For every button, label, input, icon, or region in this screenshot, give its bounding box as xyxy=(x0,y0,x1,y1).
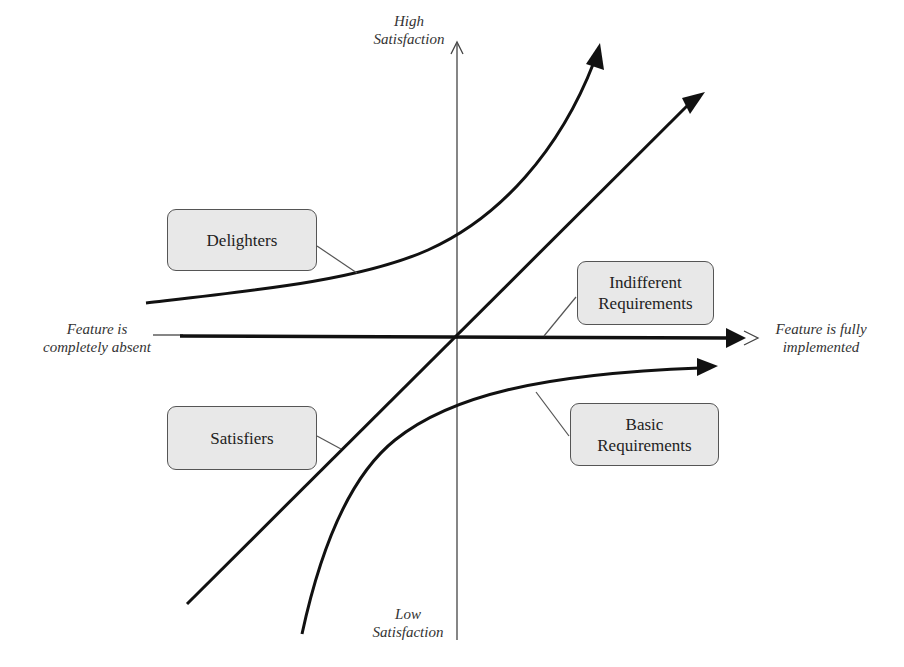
delighters-label: Delighters xyxy=(207,230,278,251)
delighters-arrow-icon xyxy=(586,43,604,70)
basic-leader xyxy=(536,392,569,436)
x-axis-right-label: Feature is fully implemented xyxy=(756,320,886,356)
indifferent-label-line-1: Indifferent xyxy=(609,272,681,293)
x-left-line-2: completely absent xyxy=(22,338,172,356)
satisfiers-arrow-icon xyxy=(682,92,705,114)
y-bottom-line-1: Low xyxy=(362,605,454,623)
x-axis-left-label: Feature is completely absent xyxy=(22,320,172,356)
x-left-line-1: Feature is xyxy=(22,320,172,338)
y-top-line-2: Satisfaction xyxy=(364,30,454,48)
basic-label-line-2: Requirements xyxy=(597,435,691,456)
basic-requirements-box: Basic Requirements xyxy=(570,403,719,466)
x-axis-arrow-icon xyxy=(726,328,746,348)
delighters-box: Delighters xyxy=(167,209,317,271)
x-right-line-2: implemented xyxy=(756,338,886,356)
satisfiers-curve xyxy=(187,100,693,604)
y-axis-bottom-label: Low Satisfaction xyxy=(362,605,454,641)
satisfiers-leader xyxy=(317,436,341,449)
y-axis-top-label: High Satisfaction xyxy=(364,12,454,48)
basic-label-line-1: Basic xyxy=(626,414,664,435)
delighters-leader xyxy=(317,246,357,273)
x-right-line-1: Feature is fully xyxy=(756,320,886,338)
satisfiers-label: Satisfiers xyxy=(210,428,273,449)
satisfiers-box: Satisfiers xyxy=(167,406,317,470)
y-bottom-line-2: Satisfaction xyxy=(362,623,454,641)
y-top-line-1: High xyxy=(364,12,454,30)
indifferent-requirements-box: Indifferent Requirements xyxy=(577,261,714,325)
indifferent-leader xyxy=(544,297,576,336)
indifferent-label-line-2: Requirements xyxy=(598,293,692,314)
basic-arrow-icon xyxy=(697,358,718,376)
